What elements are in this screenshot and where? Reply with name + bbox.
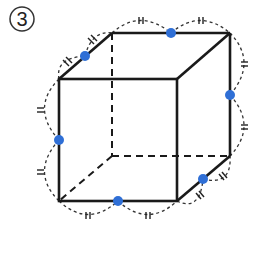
- cube-svg: 3: [0, 0, 262, 258]
- equal-length-arcs: [45, 21, 245, 215]
- tick-marks: [37, 17, 248, 219]
- mid-front-left-edge: [54, 135, 64, 145]
- mid-front-bottom-edge: [113, 196, 123, 206]
- mid-top-left-edge: [80, 51, 90, 61]
- mid-back-right-edge: [225, 90, 235, 100]
- figure-number: 3: [16, 8, 27, 30]
- midpoint-markers: [54, 28, 235, 206]
- mid-back-top-edge: [166, 28, 176, 38]
- mid-bottom-right-edge: [198, 174, 208, 184]
- cube-diagram: 3: [0, 0, 262, 258]
- figure-number-badge: 3: [10, 7, 34, 31]
